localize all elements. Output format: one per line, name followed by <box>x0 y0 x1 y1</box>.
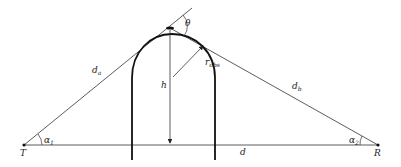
alpha1-arc <box>38 134 42 145</box>
label-d-b: db <box>292 82 302 92</box>
diagram-svg <box>0 0 401 167</box>
label-r-obs: robs <box>205 58 220 68</box>
point-R <box>376 143 379 146</box>
label-alpha1: α1 <box>44 136 54 146</box>
diagram-canvas: da h robs θ db α1 α2 T d R <box>0 0 401 167</box>
label-R: R <box>374 149 381 158</box>
radius-arrow-r-obs <box>173 46 203 77</box>
label-h: h <box>161 81 167 90</box>
obstacle-shape <box>132 34 215 160</box>
label-theta: θ <box>185 19 190 28</box>
alpha2-arc <box>360 136 362 145</box>
label-alpha2: α2 <box>349 136 359 146</box>
label-d: d <box>240 148 246 157</box>
point-T <box>22 143 25 146</box>
label-d-a: da <box>92 66 101 76</box>
apex-point <box>166 26 174 29</box>
label-T: T <box>20 149 26 158</box>
